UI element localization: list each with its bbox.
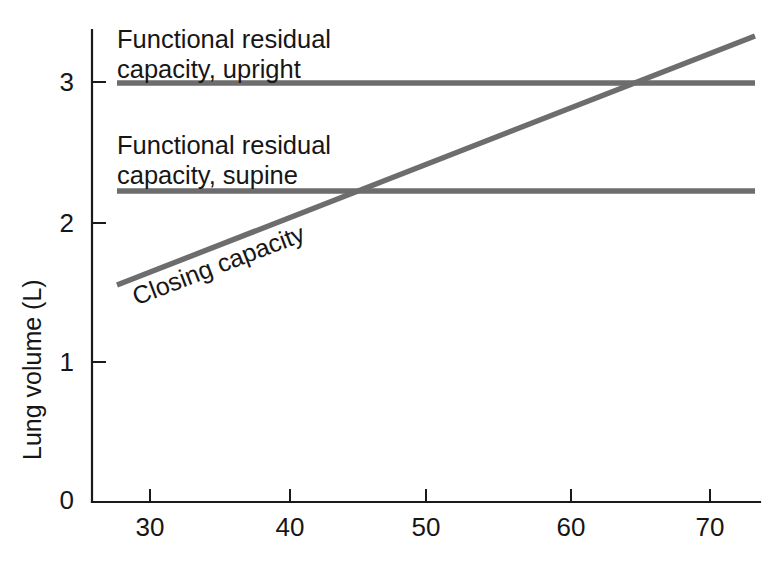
series-label-frc-supine: Functional residual capacity, supine <box>117 130 331 190</box>
x-tick-label-50: 50 <box>412 512 441 543</box>
x-tick-label-60: 60 <box>557 512 586 543</box>
y-tick-label-0: 0 <box>40 485 74 516</box>
y-axis-title: Lung volume (L) <box>18 140 47 460</box>
x-tick-label-30: 30 <box>136 512 165 543</box>
chart-plot-area <box>0 0 773 562</box>
y-tick-label-1: 1 <box>40 347 74 378</box>
x-tick-label-40: 40 <box>276 512 305 543</box>
x-tick-label-70: 70 <box>696 512 725 543</box>
y-tick-label-2: 2 <box>40 208 74 239</box>
lung-volume-chart-figure: Lung volume (L) 3 2 1 0 30 40 50 60 70 F… <box>0 0 773 562</box>
series-label-frc-upright: Functional residual capacity, upright <box>117 24 331 84</box>
y-tick-label-3: 3 <box>40 67 74 98</box>
